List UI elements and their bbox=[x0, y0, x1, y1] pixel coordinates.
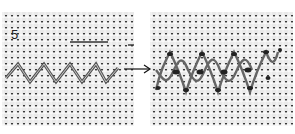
left-stitch-photo: 5 bbox=[2, 12, 134, 126]
zigzag-stitch-illustration bbox=[2, 12, 134, 126]
right-stitch-photo bbox=[150, 12, 293, 126]
step-number: 5 bbox=[11, 28, 18, 41]
interlaced-stitch-illustration bbox=[150, 12, 293, 126]
arrow-right-icon bbox=[124, 64, 152, 74]
